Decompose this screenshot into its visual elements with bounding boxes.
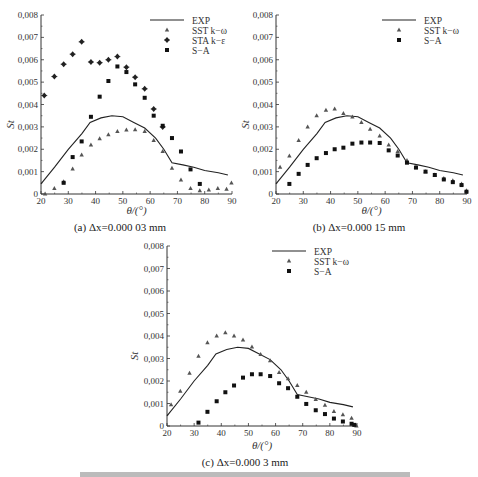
square-marker [405,161,409,165]
square-marker [198,182,202,186]
square-marker [323,412,327,416]
y-tick-label: 0,004 [144,331,165,341]
series-square [196,372,356,427]
x-tick-label: 90 [463,196,473,206]
square-marker [314,408,318,412]
panel-caption-a: (a) Δx=0.000 03 mm [0,221,240,233]
square-marker [170,136,174,140]
y-tick-label: 0,008 [18,10,39,20]
square-marker [460,183,464,187]
square-marker [324,151,328,155]
square-marker [352,423,356,427]
square-marker [152,114,156,118]
y-tick-label: 0,007 [144,264,165,274]
x-tick-label: 20 [37,196,47,206]
triangle-marker [397,28,401,32]
x-axis-label: θ/(°) [361,204,382,217]
triangle-marker [296,138,300,142]
series-square [62,64,202,185]
triangle-marker [324,108,328,112]
series-triangle [278,107,469,193]
triangle-marker [169,402,173,406]
triangle-marker [196,354,200,358]
triangle-marker [295,383,299,387]
square-marker [306,163,310,167]
x-axis-label: θ/(°) [126,204,147,217]
triangle-marker [223,330,227,334]
legend: EXPSST k−ωSTA k−εS−A [150,16,227,56]
legend-label: S−A [192,46,210,56]
legend-label: EXP [314,247,332,257]
y-tick-label: 0,004 [253,100,274,110]
square-marker [205,410,209,414]
square-marker [189,167,193,171]
triangle-marker [304,390,308,394]
x-tick-label: 90 [228,196,238,206]
square-marker [315,156,319,160]
triangle-marker [170,166,174,170]
square-marker [414,166,418,170]
y-axis-label: St [128,351,140,361]
triangle-marker [205,340,209,344]
y-tick-label: 0,003 [18,122,39,132]
y-tick-label: 0,002 [144,376,164,386]
y-tick-label: 0,002 [18,144,38,154]
legend-label: S−A [314,267,332,277]
square-marker [464,190,468,194]
square-marker [341,146,345,150]
square-marker [98,95,102,99]
square-marker [295,395,299,399]
x-tick-label: 40 [217,428,227,438]
y-tick-label: 0,004 [18,100,39,110]
square-marker [89,115,93,119]
y-tick-label: 0,005 [253,77,274,87]
triangle-marker [229,180,233,184]
y-tick-label: 0,001 [18,167,38,177]
y-tick-label: 0,001 [144,399,164,409]
square-marker [241,376,245,380]
square-marker [106,79,110,83]
triangle-marker [341,412,345,416]
triangle-marker [287,154,291,158]
triangle-marker [349,416,353,420]
triangle-marker [287,259,291,263]
square-marker [341,420,345,424]
triangle-marker [368,127,372,131]
x-tick-label: 70 [173,196,183,206]
y-tick-label: 0,008 [144,241,165,251]
y-tick-label: 0,005 [18,77,39,87]
square-marker [304,402,308,406]
square-marker [161,124,165,128]
triangle-marker [207,188,211,192]
series-triangle [169,330,359,427]
x-tick-label: 30 [299,196,309,206]
y-axis-label: St [239,119,251,129]
legend-label: EXP [424,16,442,26]
triangle-marker [89,142,93,146]
triangle-marker [52,186,56,190]
square-marker [232,384,236,388]
x-tick-label: 60 [381,196,391,206]
y-tick-label: 0,008 [253,10,274,20]
legend-label: SST k−ω [314,257,349,267]
series-triangle [43,127,234,195]
triangle-marker [187,371,191,375]
x-tick-label: 50 [244,428,254,438]
x-tick-label: 80 [435,196,445,206]
triangle-marker [188,186,192,190]
square-marker [287,182,291,186]
triangle-marker [250,344,254,348]
x-tick-label: 20 [163,428,173,438]
square-marker [71,155,75,159]
y-tick-label: 0,003 [253,122,274,132]
x-tick-label: 70 [408,196,418,206]
triangle-marker [341,111,345,115]
square-marker [124,70,128,74]
square-marker [397,38,401,42]
square-marker [179,149,183,153]
square-marker [80,139,84,143]
triangle-marker [133,127,137,131]
square-marker [62,181,66,185]
chart-panel-b: 00,0010,0020,0030,0040,0050,0060,0070,00… [239,10,472,217]
square-marker [387,148,391,152]
